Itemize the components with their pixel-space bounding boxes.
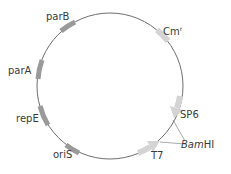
label-cmr: Cmr <box>163 25 183 37</box>
feature-parA <box>38 60 42 79</box>
label-repE: repE <box>16 113 39 124</box>
label-parA: parA <box>8 65 32 76</box>
label-parB: parB <box>46 11 70 22</box>
feature-repE <box>40 106 48 125</box>
label-oriS: oriS <box>53 149 72 160</box>
plasmid-map: parB parA repE oriS Cmr SP6 T7 BamHI <box>0 0 231 174</box>
bamhi-line-upper <box>173 120 185 141</box>
label-bamhi: BamHI <box>181 139 214 150</box>
label-sp6: SP6 <box>180 109 199 120</box>
feature-t7-arrow <box>138 147 150 153</box>
feature-parB <box>61 22 75 31</box>
feature-sp6-arrow <box>177 96 180 108</box>
label-t7: T7 <box>150 150 163 161</box>
